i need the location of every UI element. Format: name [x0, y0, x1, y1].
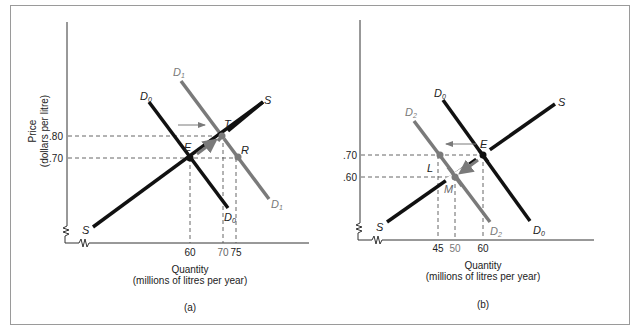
- x-axis-with-break: [356, 223, 594, 244]
- x-axis-with-break: [63, 226, 309, 247]
- x-tick-60: 60: [184, 247, 196, 258]
- label-d2-bottom: D2: [490, 225, 502, 238]
- label-s-top: S: [558, 96, 566, 108]
- label-r: R: [241, 144, 249, 156]
- demand-curve-d1: [181, 81, 269, 199]
- point-m: [452, 174, 459, 181]
- label-d0-bottom: D0: [533, 224, 545, 237]
- label-d1-top: D1: [173, 66, 185, 79]
- x-axis-label-line2: (millions of litres per year): [133, 275, 247, 286]
- y-tick-070: .70: [49, 153, 63, 164]
- label-l: L: [427, 162, 433, 174]
- x-axis-label-line1: Quantity: [171, 264, 208, 275]
- label-s-bottom: S: [82, 224, 90, 236]
- svg-text:(dollars per litre): (dollars per litre): [39, 95, 50, 167]
- x-tick-45: 45: [432, 243, 444, 254]
- label-d0-top: D0: [434, 87, 446, 100]
- point-e: [187, 155, 194, 162]
- panel-caption-b: (b): [477, 299, 489, 310]
- x-axis-label-line1: Quantity: [464, 260, 501, 271]
- panel-b: E L M D0 D0 D2 D2 S S .70 .60 45 50 60 Q…: [343, 20, 594, 310]
- label-s-top: S: [264, 94, 272, 106]
- y-tick-080: .80: [49, 131, 63, 142]
- supply-curve-s: [93, 102, 263, 227]
- x-tick-50: 50: [449, 243, 461, 254]
- point-e: [480, 152, 487, 159]
- supply-curve-s: [387, 104, 555, 222]
- label-e: E: [480, 138, 488, 150]
- point-l: [437, 152, 444, 159]
- point-t: [219, 133, 226, 140]
- label-d1-bottom: D1: [271, 198, 283, 211]
- label-e: E: [184, 141, 192, 153]
- x-axis-label-line2: (millions of litres per year): [426, 271, 540, 282]
- y-tick-070: .70: [343, 150, 357, 161]
- label-d0-bottom: D0: [224, 211, 236, 224]
- x-tick-60: 60: [477, 243, 489, 254]
- svg-text:Price: Price: [27, 119, 38, 142]
- panel-caption-a: (a): [184, 302, 196, 313]
- y-tick-060: .60: [343, 172, 357, 183]
- panel-a: E T R D0 D0 D1 D1 S S .80 .70 60 70 75 P…: [27, 22, 309, 313]
- x-tick-75: 75: [230, 247, 242, 258]
- label-d0-top: D0: [140, 90, 152, 103]
- supply-demand-figure: E T R D0 D0 D1 D1 S S .80 .70 60 70 75 P…: [0, 0, 637, 332]
- label-d2-top: D2: [405, 106, 417, 119]
- label-m: M: [444, 183, 454, 195]
- x-tick-70: 70: [217, 247, 229, 258]
- y-axis-label: Price (dollars per litre): [27, 95, 50, 167]
- label-s-bottom: S: [376, 221, 384, 233]
